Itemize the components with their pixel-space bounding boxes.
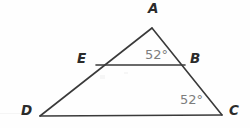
vertex-label-A: A bbox=[148, 2, 158, 16]
segment-DA bbox=[40, 28, 152, 116]
angle-label-ABE: 52° bbox=[145, 48, 168, 61]
geometry-figure: A B C D E 52° 52° bbox=[0, 0, 250, 128]
vertex-label-B: B bbox=[190, 52, 200, 66]
geometry-canvas bbox=[0, 0, 250, 128]
vertex-label-C: C bbox=[229, 104, 239, 118]
vertex-label-E: E bbox=[77, 52, 86, 66]
angle-label-BCD: 52° bbox=[180, 93, 203, 106]
segment-DC bbox=[40, 115, 222, 116]
vertex-label-D: D bbox=[21, 104, 32, 118]
